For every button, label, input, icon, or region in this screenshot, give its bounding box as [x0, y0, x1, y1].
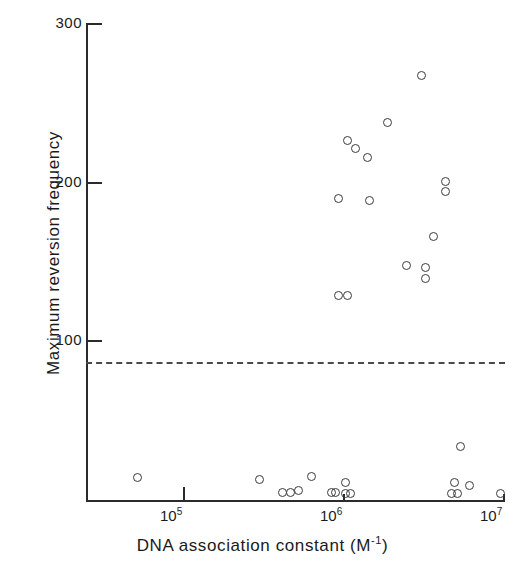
- x-tick-mantissa-1e6: 10: [320, 507, 337, 524]
- data-point: [421, 274, 430, 283]
- data-point: [417, 71, 426, 80]
- y-tick-label-300: 300: [26, 14, 82, 31]
- x-tick-mantissa-1e7: 10: [480, 507, 497, 524]
- x-tick-mantissa-1e5: 10: [160, 507, 177, 524]
- data-point: [351, 144, 360, 153]
- data-point: [496, 489, 505, 498]
- y-tick-100: [88, 340, 102, 342]
- data-point: [429, 232, 438, 241]
- y-tick-label-200: 200: [26, 173, 82, 190]
- data-point: [307, 472, 316, 481]
- data-point: [346, 489, 355, 498]
- y-axis-title: Maximum reversion frequency: [44, 103, 64, 403]
- x-tick-label-1e6: 106: [320, 506, 342, 524]
- x-tick-exponent-1e6: 6: [337, 506, 343, 517]
- x-axis-title-main: DNA association constant (M: [137, 536, 371, 555]
- data-point: [383, 118, 392, 127]
- data-point: [453, 489, 462, 498]
- data-point: [334, 291, 343, 300]
- y-tick-label-100: 100: [26, 331, 82, 348]
- data-point: [343, 291, 352, 300]
- y-axis-line: [86, 23, 88, 502]
- x-axis-title-exponent: -1: [371, 534, 382, 546]
- data-point: [441, 187, 450, 196]
- data-point: [255, 475, 264, 484]
- scatter-plot: Maximum reversion frequency 300 200 100 …: [0, 0, 525, 575]
- data-point: [133, 473, 142, 482]
- data-point: [441, 177, 450, 186]
- data-point: [456, 442, 465, 451]
- threshold-dashed-line: [86, 362, 505, 364]
- y-tick-200: [88, 182, 102, 184]
- x-tick-1e5: [183, 487, 185, 501]
- y-tick-300: [88, 23, 102, 25]
- x-axis-line: [86, 500, 505, 502]
- data-point: [294, 486, 303, 495]
- x-tick-label-1e5: 105: [160, 506, 182, 524]
- data-point: [363, 153, 372, 162]
- data-point: [334, 194, 343, 203]
- x-tick-exponent-1e7: 7: [497, 506, 503, 517]
- data-point: [365, 196, 374, 205]
- data-point: [402, 261, 411, 270]
- data-point: [421, 263, 430, 272]
- x-tick-label-1e7: 107: [480, 506, 502, 524]
- x-tick-exponent-1e5: 5: [177, 506, 183, 517]
- data-point: [450, 478, 459, 487]
- data-point: [343, 136, 352, 145]
- data-point: [341, 478, 350, 487]
- x-axis-title-close: ): [382, 536, 388, 555]
- data-point: [465, 481, 474, 490]
- x-axis-title: DNA association constant (M-1): [0, 534, 525, 556]
- data-point: [331, 488, 340, 497]
